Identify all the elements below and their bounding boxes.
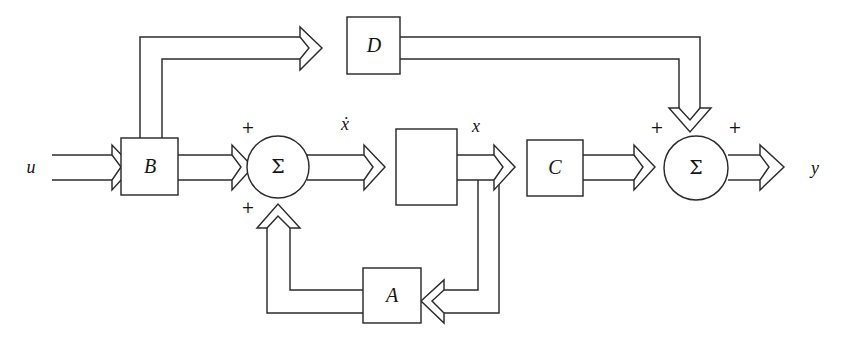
block-diagram-canvas: B D A C Σ Σ + + + + — [0, 0, 850, 346]
arrowhead-x-to-a — [421, 280, 444, 323]
arrowhead-sum-left-to-integrator — [364, 145, 385, 190]
state-space-block-diagram: B D A C Σ Σ + + + + — [0, 0, 850, 346]
sum-left-label: Σ — [271, 155, 284, 177]
arrowhead-c-to-sum-right — [634, 145, 655, 190]
block-d: D — [347, 17, 400, 74]
wire-sum-left-to-integrator — [307, 155, 364, 180]
wire-integrator-to-c — [457, 155, 494, 180]
wire-b-to-sum-left — [178, 155, 232, 180]
arrowhead-output-y — [760, 145, 784, 190]
arrowhead-d-to-sum-right — [669, 108, 711, 132]
block-a-label: A — [384, 284, 399, 306]
block-integrator — [396, 129, 457, 205]
signal-label-y: y — [809, 158, 819, 178]
sum-junction-left: Σ — [247, 136, 309, 198]
sign-sum-right-right: + — [728, 118, 741, 137]
wire-u-input — [52, 155, 112, 180]
sum-junction-right: Σ — [664, 136, 728, 200]
block-b-label: B — [144, 155, 156, 177]
block-d-label: D — [366, 34, 382, 56]
block-c: C — [527, 140, 583, 196]
arrowhead-a-to-sum-left — [257, 204, 300, 228]
signal-label-xdot: ẋ — [340, 114, 349, 134]
sign-sum-left-top: + — [241, 118, 254, 137]
wire-a-to-sum-left — [267, 228, 363, 313]
signal-label-x: x — [471, 116, 480, 136]
block-a: A — [363, 268, 421, 323]
arrowhead-integrator-to-c — [494, 145, 515, 190]
sum-right-label: Σ — [689, 156, 702, 178]
arrowhead-to-d — [300, 27, 322, 70]
sign-sum-left-bottom: + — [241, 198, 254, 217]
wire-d-to-sum-right — [400, 37, 700, 108]
block-b: B — [121, 138, 178, 195]
wire-sum-right-to-y — [728, 155, 760, 180]
wire-c-to-sum-right — [583, 155, 634, 180]
signal-label-u: u — [27, 157, 36, 177]
block-c-label: C — [548, 156, 562, 178]
wire-b-to-d-feedforward — [140, 37, 300, 138]
sign-sum-right-left: + — [650, 118, 663, 137]
